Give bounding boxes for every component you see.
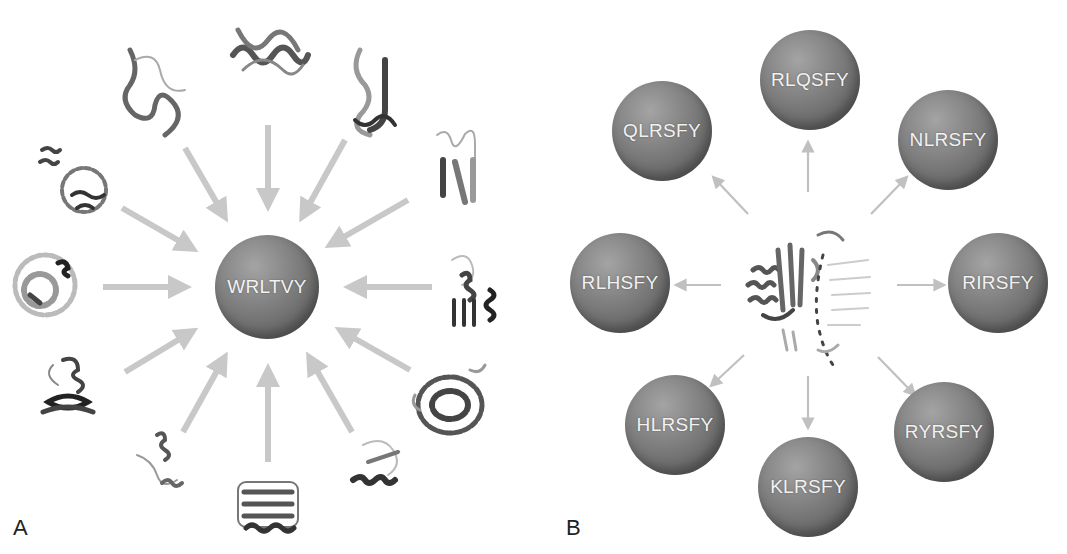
- sphere-rlhsfy: RLHSFY: [570, 233, 670, 333]
- center-sphere-wrltvy: WRLTVY: [215, 235, 319, 339]
- sphere-label: RYRSFY: [905, 421, 984, 443]
- sphere-label: KLRSFY: [770, 476, 846, 498]
- sphere-label: RLHSFY: [582, 272, 659, 294]
- sphere-label: RLQSFY: [771, 69, 849, 91]
- sphere-hlrsfy: HLRSFY: [625, 375, 725, 475]
- panel-label-a: A: [13, 515, 28, 541]
- sphere-qlrsfy: QLRSFY: [612, 81, 712, 181]
- panel-b: RLQSFY NLRSFY RIRSFY RYRSFY KLRSFY HLRSF…: [540, 0, 1067, 554]
- sphere-label: WRLTVY: [227, 276, 307, 298]
- arrow-to-hlrsfy: [714, 355, 744, 383]
- panel-a: WRLTVY A: [0, 0, 540, 554]
- panel-label-b: B: [566, 515, 581, 541]
- sphere-rlqsfy: RLQSFY: [760, 30, 860, 130]
- sphere-label: HLRSFY: [637, 414, 714, 436]
- arrow-to-nlrsfy: [871, 180, 904, 214]
- protein-structure-icon: [748, 232, 870, 365]
- arrow-to-qlrsfy: [716, 180, 748, 214]
- sphere-label: NLRSFY: [910, 129, 987, 151]
- sphere-rirsfy: RIRSFY: [948, 233, 1048, 333]
- arrow-to-ryrsfy: [878, 357, 912, 392]
- sphere-label: QLRSFY: [623, 120, 701, 142]
- sphere-label: RIRSFY: [962, 272, 1033, 294]
- sphere-klrsfy: KLRSFY: [758, 437, 858, 537]
- sphere-nlrsfy: NLRSFY: [898, 90, 998, 190]
- sphere-ryrsfy: RYRSFY: [894, 382, 994, 482]
